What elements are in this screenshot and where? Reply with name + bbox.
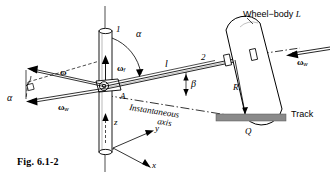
- label-axis-z: z: [114, 118, 118, 127]
- label-length-l: l: [165, 59, 168, 69]
- label-alpha-top: α: [136, 29, 141, 39]
- label-omega-wheel-left: ωw: [58, 103, 69, 113]
- label-alpha-left: α: [7, 93, 12, 103]
- label-omega-frame: ωf: [117, 64, 125, 74]
- left-angle-marker: [26, 70, 34, 99]
- label-radius-r: R: [233, 83, 239, 92]
- wheel-body-symbol: L: [296, 9, 301, 19]
- figure-caption: Fig. 6.1-2: [17, 157, 59, 167]
- label-contact-point-q: Q: [245, 127, 252, 136]
- track-bar: [216, 114, 286, 121]
- omega-wheel-right-vector: [286, 47, 330, 58]
- label-joint-1: 1: [116, 25, 121, 34]
- beta-angle-marker: [183, 72, 188, 96]
- wheel-body: [226, 16, 282, 125]
- label-axis-x: x: [152, 161, 156, 170]
- label-beta: β: [191, 79, 196, 89]
- label-omega-wheel-right: ωw: [297, 58, 308, 68]
- label-wheel-body: Wheel−body L: [243, 10, 301, 19]
- label-joint-2: 2: [201, 53, 206, 62]
- vector-parallelogram: [26, 60, 106, 99]
- wheel-body-text: Wheel−body: [243, 9, 293, 19]
- label-point-a: A: [120, 92, 126, 101]
- label-track: Track: [291, 110, 313, 119]
- label-omega-resultant: ω: [60, 68, 67, 77]
